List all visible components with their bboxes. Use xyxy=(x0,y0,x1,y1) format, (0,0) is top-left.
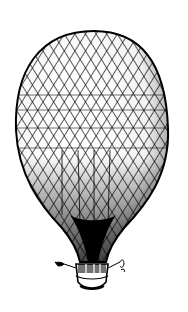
balloon-drawing xyxy=(0,0,188,312)
gondola-basket xyxy=(76,264,108,289)
balloon-illustration xyxy=(0,0,188,312)
right-pennant xyxy=(108,260,125,272)
left-pennant xyxy=(55,262,76,268)
